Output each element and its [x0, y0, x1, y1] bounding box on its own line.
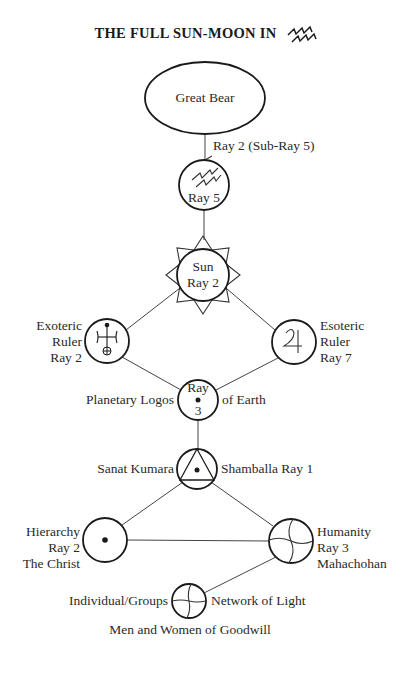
sun-ray-label: Ray 2 — [173, 275, 233, 291]
individual-groups-label: Individual/Groups — [20, 593, 168, 609]
aquarius-ray-label: Ray 5 — [174, 190, 234, 206]
sanat-kumara-label: Sanat Kumara — [40, 461, 174, 477]
goodwill-label: Men and Women of Goodwill — [40, 622, 340, 638]
planetary-ray-number: 3 — [178, 403, 218, 419]
center-point-icon — [195, 468, 200, 473]
hierarchy-label: Hierarchy — [0, 524, 80, 540]
sun-label: Sun — [173, 259, 233, 275]
humanity-label: Humanity — [317, 524, 371, 540]
hierarchy-ray-label: Ray 2 — [0, 540, 80, 556]
shamballa-label: Shamballa Ray 1 — [221, 461, 313, 477]
hierarchy-christ-label: The Christ — [0, 556, 80, 572]
esoteric-ruler-label: Ruler — [320, 334, 350, 350]
point-in-circle-icon — [102, 537, 108, 543]
great-bear-label: Great Bear — [145, 90, 265, 106]
esoteric-label: Esoteric — [320, 318, 364, 334]
mahachohan-label: Mahachohan — [317, 556, 387, 572]
esoteric-ruler-node — [272, 320, 316, 364]
exoteric-ray-label: Ray 2 — [20, 350, 82, 366]
of-earth-label: of Earth — [222, 392, 266, 408]
center-point-icon — [196, 398, 201, 403]
esoteric-ray-label: Ray 7 — [320, 350, 352, 366]
exoteric-label: Exoteric — [20, 318, 82, 334]
planetary-logos-label: Planetary Logos — [40, 392, 174, 408]
humanity-ray-label: Ray 3 — [317, 540, 349, 556]
exoteric-ruler-label: Ruler — [20, 334, 82, 350]
planetary-ray-label: Ray — [178, 380, 218, 396]
network-of-light-label: Network of Light — [211, 593, 305, 609]
arrow-label: Ray 2 (Sub-Ray 5) — [213, 138, 315, 154]
